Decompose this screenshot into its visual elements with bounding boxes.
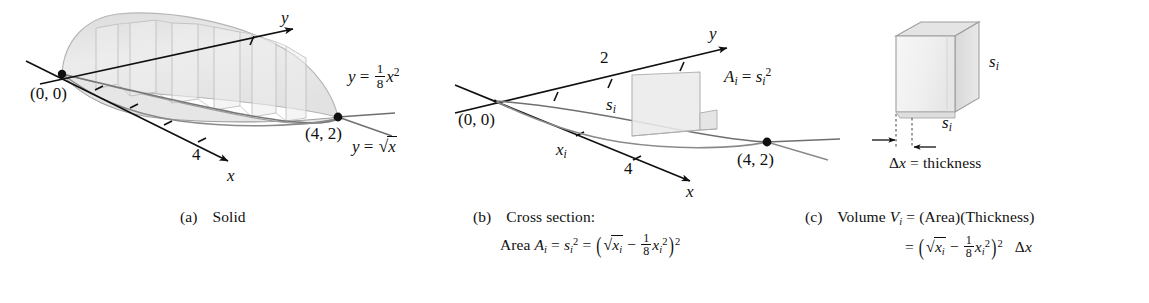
panel-c-formula-var: x [975, 238, 982, 255]
panel-a-y-axis-label: y [281, 8, 289, 28]
panel-c-dx-var: x [1025, 238, 1032, 255]
panel-b-radicand-sub: i [619, 244, 622, 255]
panel-b-x-axis-label: x [686, 182, 694, 202]
panel-c-caption-tag: (c) [805, 208, 823, 225]
panel-c-caption-line1: (c) Volume Vi = (Area)(Thickness) [805, 208, 1034, 227]
panel-b-origin-label: (0, 0) [458, 110, 495, 130]
panel-c-thickness-label: Δx = thickness [889, 154, 981, 172]
panel-c-delta-symbol: Δ [889, 154, 899, 171]
panel-c-outer-exp: 2 [998, 238, 1003, 249]
panel-b-area-annotation: Ai = si2 [724, 66, 771, 88]
panel-c-numerator: 1 [964, 234, 974, 246]
panel-c-caption-text: Volume [837, 208, 886, 225]
panel-c-si-bottom-var: s [942, 113, 949, 132]
eq-a-numerator: 1 [375, 62, 386, 76]
panel-b-eq-2: = [582, 236, 591, 253]
panel-a-point-4-2 [334, 113, 343, 122]
xi-variable: x [556, 140, 564, 159]
panel-a-x-tick-label: 4 [192, 145, 201, 165]
panel-b-point-label: (4, 2) [737, 150, 774, 170]
panel-c-caption-equals: = [906, 208, 915, 225]
si-variable: s [606, 95, 613, 114]
panel-c-caption-rhs: (Area)(Thickness) [919, 208, 1034, 225]
eq-a-variable: x [386, 67, 394, 86]
eq-a2-radicand: x [387, 136, 397, 157]
panel-b-paren-close: ) [669, 231, 674, 259]
panel-c-formula-exp: 2 [985, 238, 990, 249]
panel-b-area-word: Area [500, 236, 531, 253]
panel-c-volume-symbol: V [890, 208, 900, 225]
panel-c-paren-close: ) [991, 233, 996, 261]
panel-b-s-exp-2: 2 [573, 236, 578, 247]
panel-b-y-axis-label: y [709, 24, 717, 44]
xi-subscript: i [564, 148, 567, 161]
panel-b-caption-line1: (b) Cross section: [473, 208, 595, 226]
panel-b-point-4-2 [763, 138, 772, 147]
panel-a-point-label: (4, 2) [305, 124, 342, 144]
panel-b-x-tick-label: 4 [624, 159, 633, 179]
panel-b-cross-section-square [632, 72, 717, 136]
panel-c-volume-sub: i [899, 216, 902, 227]
panel-b-numerator: 1 [641, 232, 651, 244]
panel-c-thickness-word: thickness [923, 154, 982, 171]
eq-a2-equals: = [364, 137, 374, 156]
panel-b-fraction: 1 8 [641, 232, 651, 258]
panel-c-denominator: 8 [964, 246, 974, 259]
eq-a-exponent: 2 [394, 66, 400, 79]
panel-a-curve-tails [338, 113, 395, 136]
panel-c-paren-open: ( [919, 233, 924, 261]
panel-b-denominator: 8 [641, 244, 651, 257]
panel-c-artwork [872, 22, 979, 147]
panel-b-xi-label: xi [556, 140, 567, 161]
panel-c-si-right-sub: i [996, 60, 999, 73]
panel-c-delta-var: x [899, 154, 906, 171]
area-s-exponent: 2 [766, 66, 772, 79]
panel-a-caption-tag: (a) [180, 208, 198, 225]
eq-a-equals: = [360, 67, 370, 86]
panel-c-si-right-var: s [989, 52, 996, 71]
panel-c-radical: √xi [925, 237, 946, 257]
panel-b-radical: √xi [603, 235, 624, 255]
panel-b-si-label: si [606, 95, 616, 116]
eq-a-fraction: 1 8 [375, 62, 386, 90]
panel-b-formula-exp: 2 [662, 236, 667, 247]
eq-a2-radical: √x [378, 136, 397, 157]
panel-b-outer-exp: 2 [675, 236, 680, 247]
panel-c-fraction: 1 8 [964, 234, 974, 260]
panel-c-dx-delta: Δ [1015, 238, 1025, 255]
panel-b-y-tick-label: 2 [600, 48, 609, 68]
si-subscript: i [613, 103, 616, 116]
panel-b-caption-text: Cross section: [506, 208, 595, 225]
panel-b-area-sub-2: i [544, 244, 547, 255]
panel-c-si-right: si [989, 52, 999, 73]
eq-a-denominator: 8 [375, 76, 386, 91]
figure-container: (0, 0) (4, 2) 4 x y y = 1 8 x2 y = √x (a… [0, 0, 1149, 303]
panel-a-curve-lower-equation: y = 1 8 x2 [348, 62, 400, 90]
panel-b-origin-marker [493, 99, 496, 102]
area-equals: = [742, 67, 752, 86]
panel-b-area-symbol-2: A [535, 236, 545, 253]
panel-b-paren-open: ( [596, 231, 601, 259]
eq-a2-lhs: y [352, 137, 360, 156]
panel-a-caption: (a) Solid [180, 208, 246, 226]
panel-b-caption-line2: Area Ai = si2 = (√xi − 1 8 xi2)2 [500, 232, 680, 258]
panel-b-eq-1: = [551, 236, 560, 253]
panel-c-thickness-equals: = [910, 154, 919, 171]
slab-thickness-dimension [872, 114, 936, 147]
panel-c-radicand-sub: i [942, 246, 945, 257]
area-symbol: A [724, 67, 734, 86]
panel-c-minus: − [950, 238, 959, 255]
panel-c-radicand-var: x [935, 238, 942, 255]
panel-a-caption-text: Solid [212, 208, 245, 225]
area-subscript: i [734, 75, 737, 88]
panel-c-line2-equals: = [905, 238, 914, 255]
eq-a-lhs: y [348, 67, 356, 86]
panel-b-artwork [455, 48, 840, 181]
panel-a-origin-point [58, 70, 66, 78]
panel-c-si-bottom-sub: i [949, 121, 952, 134]
panel-b-caption-tag: (b) [473, 208, 491, 225]
panel-c-caption-line2: = (√xi − 1 8 xi2)2 Δx [905, 234, 1032, 260]
slab-front-face [896, 36, 955, 112]
slab-right-face [955, 22, 979, 112]
panel-a-origin-label: (0, 0) [30, 84, 67, 104]
